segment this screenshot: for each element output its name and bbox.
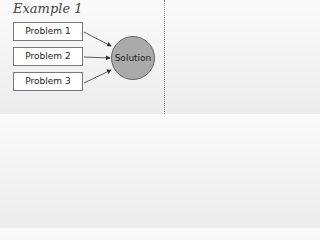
dotted-divider xyxy=(164,0,165,114)
arrow-1 xyxy=(84,32,111,46)
arrow-2 xyxy=(84,57,110,58)
solution-node: Solution xyxy=(111,36,155,80)
arrow-3 xyxy=(84,70,111,83)
